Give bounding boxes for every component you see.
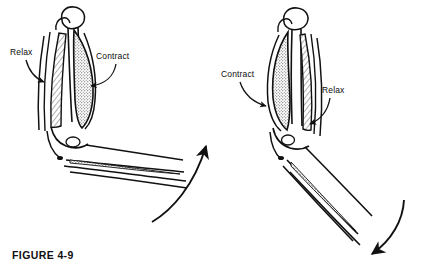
label-relax-left: Relax — [10, 47, 32, 57]
right-triceps-relaxed — [300, 34, 322, 136]
label-relax-right: Relax — [322, 85, 344, 95]
left-elbow-joint — [47, 127, 88, 160]
left-humerus-head — [56, 7, 85, 30]
extension-arrow — [372, 200, 404, 254]
leader-relax-right — [310, 98, 330, 124]
figure-illustration: Relax Contract Contract Relax FIGURE 4-9 — [0, 0, 422, 272]
right-humerus-head — [278, 8, 308, 32]
right-arm-figure — [240, 8, 372, 245]
leader-contract-right — [240, 82, 266, 106]
figure-caption: FIGURE 4-9 — [12, 249, 74, 261]
left-forearm-extended — [64, 145, 187, 188]
anatomy-line-art — [0, 0, 422, 272]
label-contract-right: Contract — [221, 69, 254, 79]
label-contract-left: Contract — [96, 51, 129, 61]
leader-relax-left — [26, 60, 44, 82]
right-biceps-contracted — [267, 32, 290, 131]
right-elbow-joint — [270, 128, 309, 160]
left-arm-figure — [26, 7, 187, 188]
left-biceps-contracted — [74, 30, 96, 129]
right-forearm-flexed — [283, 147, 372, 245]
